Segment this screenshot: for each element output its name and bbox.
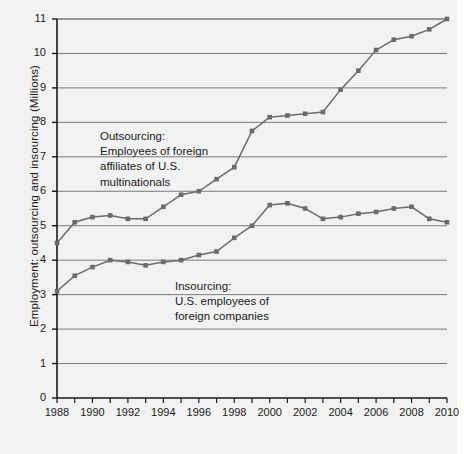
data-point-marker bbox=[197, 253, 202, 258]
data-point-marker bbox=[356, 68, 361, 73]
x-axis-tick-label: 1996 bbox=[179, 406, 219, 418]
data-point-marker bbox=[179, 258, 184, 263]
data-point-marker bbox=[267, 115, 272, 120]
data-point-marker bbox=[374, 48, 379, 53]
x-axis-tick-label: 1990 bbox=[72, 406, 112, 418]
data-point-marker bbox=[250, 223, 255, 228]
data-point-marker bbox=[143, 217, 148, 222]
data-point-marker bbox=[445, 17, 450, 22]
data-point-marker bbox=[179, 192, 184, 197]
y-axis-tick-label: 2 bbox=[24, 322, 46, 334]
x-axis-tick-label: 2010 bbox=[427, 406, 464, 418]
data-point-marker bbox=[356, 211, 361, 216]
data-point-marker bbox=[55, 289, 60, 294]
data-point-marker bbox=[232, 235, 237, 240]
data-point-marker bbox=[409, 204, 414, 209]
data-point-marker bbox=[338, 215, 343, 220]
data-point-marker bbox=[285, 113, 290, 118]
annotation-insourcing: Insourcing: U.S. employees of foreign co… bbox=[175, 279, 269, 325]
data-point-marker bbox=[143, 263, 148, 268]
x-axis-tick-label: 1994 bbox=[143, 406, 183, 418]
data-point-marker bbox=[321, 217, 326, 222]
data-point-marker bbox=[285, 201, 290, 206]
x-axis-tick-label: 2004 bbox=[321, 406, 361, 418]
data-point-marker bbox=[72, 220, 77, 225]
data-point-marker bbox=[321, 110, 326, 115]
data-point-marker bbox=[427, 27, 432, 32]
data-point-marker bbox=[267, 203, 272, 208]
data-point-marker bbox=[409, 34, 414, 39]
axes bbox=[57, 19, 447, 398]
data-point-marker bbox=[108, 213, 113, 218]
y-axis-tick-label: 0 bbox=[24, 391, 46, 403]
y-axis-tick-label: 5 bbox=[24, 219, 46, 231]
y-axis-tick-label: 11 bbox=[24, 12, 46, 24]
data-point-marker bbox=[90, 265, 95, 270]
data-point-marker bbox=[72, 273, 77, 278]
y-axis-tick-label: 7 bbox=[24, 150, 46, 162]
x-axis-tick-label: 2000 bbox=[250, 406, 290, 418]
data-point-marker bbox=[126, 217, 131, 222]
x-axis-tick-label: 1998 bbox=[214, 406, 254, 418]
x-axis-tick-label: 2008 bbox=[392, 406, 432, 418]
x-axis-tick-label: 2006 bbox=[356, 406, 396, 418]
data-point-marker bbox=[392, 37, 397, 42]
data-point-marker bbox=[161, 260, 166, 265]
annotation-outsourcing: Outsourcing: Employees of foreign affili… bbox=[100, 129, 208, 190]
data-point-marker bbox=[392, 206, 397, 211]
y-axis-tick-label: 6 bbox=[24, 184, 46, 196]
y-axis-tick-label: 4 bbox=[24, 253, 46, 265]
data-point-marker bbox=[303, 111, 308, 116]
x-axis-tick-label: 2002 bbox=[285, 406, 325, 418]
data-point-marker bbox=[250, 129, 255, 134]
data-point-marker bbox=[374, 210, 379, 215]
x-axis-tick-label: 1992 bbox=[108, 406, 148, 418]
y-axis-tick-label: 1 bbox=[24, 357, 46, 369]
data-point-marker bbox=[214, 177, 219, 182]
data-point-marker bbox=[108, 258, 113, 263]
data-point-marker bbox=[161, 204, 166, 209]
y-axis-tick-label: 10 bbox=[24, 46, 46, 58]
data-point-marker bbox=[214, 249, 219, 254]
data-point-marker bbox=[338, 87, 343, 92]
y-axis-tick-label: 3 bbox=[24, 288, 46, 300]
x-axis-tick-label: 1988 bbox=[37, 406, 77, 418]
data-point-marker bbox=[427, 217, 432, 222]
data-point-marker bbox=[126, 260, 131, 265]
data-point-marker bbox=[445, 220, 450, 225]
data-point-marker bbox=[232, 165, 237, 170]
y-axis-tick-label: 9 bbox=[24, 81, 46, 93]
data-point-marker bbox=[55, 241, 60, 246]
y-axis-tick-label: 8 bbox=[24, 115, 46, 127]
y-axis-label: Employment: outsourcing and insourcing (… bbox=[28, 0, 40, 396]
data-point-marker bbox=[303, 206, 308, 211]
data-point-marker bbox=[90, 215, 95, 220]
